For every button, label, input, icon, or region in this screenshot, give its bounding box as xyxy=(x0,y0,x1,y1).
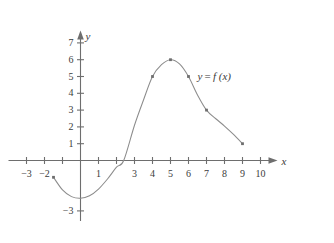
y-tick-label: 4 xyxy=(69,88,74,98)
x-axis-arrowhead xyxy=(269,157,278,164)
data-point-marker xyxy=(151,75,154,78)
axes-group xyxy=(9,30,278,221)
data-point-marker xyxy=(205,109,208,112)
y-tick-label: 7 xyxy=(69,38,74,48)
x-tick-label: 4 xyxy=(150,169,155,179)
x-tick-label: 3 xyxy=(132,169,137,179)
data-point-marker xyxy=(169,58,172,61)
data-point-marker xyxy=(241,142,244,145)
x-axis-label: x xyxy=(282,156,287,167)
data-point-marker xyxy=(52,176,55,179)
y-axis-arrowhead xyxy=(77,30,84,39)
plot-canvas xyxy=(0,0,334,243)
x-tick-label: 8 xyxy=(222,169,227,179)
x-tick-label: −3 xyxy=(21,169,32,179)
y-tick-label: −3 xyxy=(63,206,74,216)
function-graph-figure: −3−213456789107654321−3 x y y = f (x) xyxy=(0,0,334,243)
y-tick-label: 2 xyxy=(69,122,74,132)
x-tick-label: 6 xyxy=(186,169,191,179)
y-tick-label: 5 xyxy=(69,72,74,82)
y-tick-label: 1 xyxy=(69,139,74,149)
x-tick-label: −2 xyxy=(39,169,50,179)
x-tick-label: 10 xyxy=(256,169,266,179)
y-axis-label: y xyxy=(86,31,91,42)
y-tick-label: 6 xyxy=(69,55,74,65)
curve-equation-label: y = f (x) xyxy=(198,71,232,82)
x-tick-label: 5 xyxy=(168,169,173,179)
y-tick-label: 3 xyxy=(69,105,74,115)
data-point-marker xyxy=(187,75,190,78)
x-tick-label: 7 xyxy=(204,169,209,179)
x-tick-label: 1 xyxy=(96,169,101,179)
x-tick-label: 9 xyxy=(240,169,245,179)
